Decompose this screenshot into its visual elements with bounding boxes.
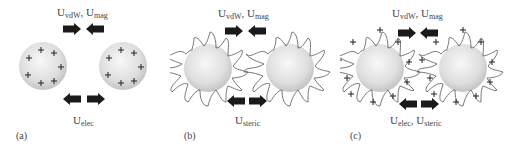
repulsion-arrows xyxy=(63,93,105,105)
repulsion-arrows xyxy=(399,98,439,110)
label-sub: mag xyxy=(429,12,443,21)
label-main: U xyxy=(73,114,81,126)
label-sub: vdW xyxy=(226,12,242,21)
label-sep: , U xyxy=(416,7,429,19)
repulsion-label: Usteric xyxy=(235,114,260,128)
attraction-arrows xyxy=(63,23,104,35)
panel-b: UvdW, Umag Usteric (b) xyxy=(170,0,340,151)
label-main: U xyxy=(57,6,65,18)
label-sub: steric xyxy=(424,119,441,128)
repulsion-arrows xyxy=(227,95,267,107)
label-sub: vdW xyxy=(400,12,416,21)
repulsion-label: Uelec, Usteric xyxy=(390,114,442,128)
repulsion-label: Uelec xyxy=(73,114,94,128)
panel-c-diagram xyxy=(340,0,511,151)
polymer-coated-particle-left xyxy=(170,32,248,106)
attraction-label: UvdW, Umag xyxy=(392,7,443,21)
charged-particle-left xyxy=(19,42,67,90)
label-sep: , U xyxy=(242,7,255,19)
panel-a: UvdW, Umag Uelec (a) xyxy=(0,0,170,151)
panel-tag: (c) xyxy=(350,130,361,141)
label-sep: , U xyxy=(411,114,424,126)
polymer-coated-particle-right xyxy=(244,32,330,106)
attraction-label: UvdW, Umag xyxy=(218,7,269,21)
label-main: U xyxy=(218,7,226,19)
panel-b-diagram xyxy=(170,0,340,151)
label-sub: steric xyxy=(243,119,260,128)
panel-tag: (a) xyxy=(16,130,27,141)
charged-polymer-particle-right xyxy=(417,27,503,106)
charged-particle-right xyxy=(99,42,147,90)
panel-c: UvdW, Umag Uelec, Usteric (c) xyxy=(340,0,511,151)
panel-a-diagram xyxy=(0,0,170,151)
label-sub: elec xyxy=(81,119,94,128)
panel-tag: (b) xyxy=(184,130,196,141)
charged-polymer-particle-left xyxy=(340,27,420,106)
attraction-label: UvdW, Umag xyxy=(57,6,108,20)
attraction-arrows xyxy=(225,25,266,37)
label-sub: vdW xyxy=(65,11,81,20)
label-main: U xyxy=(392,7,400,19)
attraction-arrows xyxy=(398,27,438,39)
label-sub: mag xyxy=(255,12,269,21)
label-sub: mag xyxy=(94,11,108,20)
label-sep: , U xyxy=(81,6,94,18)
label-main: U xyxy=(390,114,398,126)
label-main: U xyxy=(235,114,243,126)
label-sub: elec xyxy=(398,119,411,128)
